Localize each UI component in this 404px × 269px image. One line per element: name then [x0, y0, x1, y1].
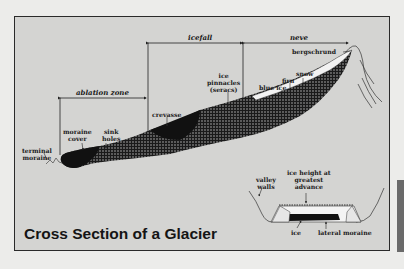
label-lateral-moraine: lateral moraine — [318, 229, 372, 236]
diagram-title: Cross Section of a Glacier — [24, 225, 217, 243]
label-snow: snow — [296, 70, 313, 77]
label-sink-holes: sink holes — [102, 128, 120, 142]
zone-label-icefall: icefall — [188, 33, 212, 42]
label-blue-ice: blue ice — [259, 84, 286, 91]
label-moraine-cover: moraine cover — [63, 128, 92, 142]
label-crevasse: crevasse — [152, 111, 181, 118]
label-terminal-moraine: terminal moraine — [22, 147, 52, 161]
zone-label-ablation: ablation zone — [76, 88, 129, 97]
valley-inset — [249, 188, 384, 229]
label-ice-height: ice height at greatest advance — [287, 169, 331, 190]
zone-label-neve: neve — [290, 33, 308, 42]
glacier-body — [61, 50, 352, 168]
label-bergschrund: bergschrund — [292, 48, 336, 55]
label-valley-walls: valley walls — [256, 176, 276, 190]
label-ice-pinnacles: ice pinnacles (seracs) — [207, 72, 240, 93]
label-firn: firn — [282, 77, 294, 84]
label-inset-ice: ice — [291, 229, 301, 236]
